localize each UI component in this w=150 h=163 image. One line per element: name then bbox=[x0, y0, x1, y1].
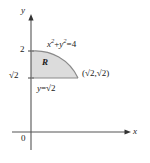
point-coordinate-label: (√2,√2) bbox=[82, 69, 109, 78]
y-tick-label-sqrt2: √2 bbox=[9, 71, 18, 80]
origin-label: 0 bbox=[21, 134, 26, 143]
x-axis-arrow-icon bbox=[125, 129, 132, 134]
circle-equation-label: x2+y2=4 bbox=[47, 38, 76, 49]
math-figure: y x 0 2 √2 x2+y2=4 R y=√2 (√2,√2) bbox=[0, 0, 150, 163]
region-label-R: R bbox=[42, 58, 48, 67]
x-axis-label: x bbox=[133, 127, 137, 136]
line-equation-label: y=√2 bbox=[37, 84, 56, 93]
line-eq-two: 2 bbox=[51, 83, 56, 93]
y-axis-arrow-icon bbox=[28, 14, 33, 21]
pt-close-paren: ) bbox=[106, 68, 109, 78]
y-axis-label: y bbox=[21, 6, 25, 15]
eq-four: 4 bbox=[72, 39, 77, 49]
y-tick-label-2: 2 bbox=[20, 45, 25, 54]
